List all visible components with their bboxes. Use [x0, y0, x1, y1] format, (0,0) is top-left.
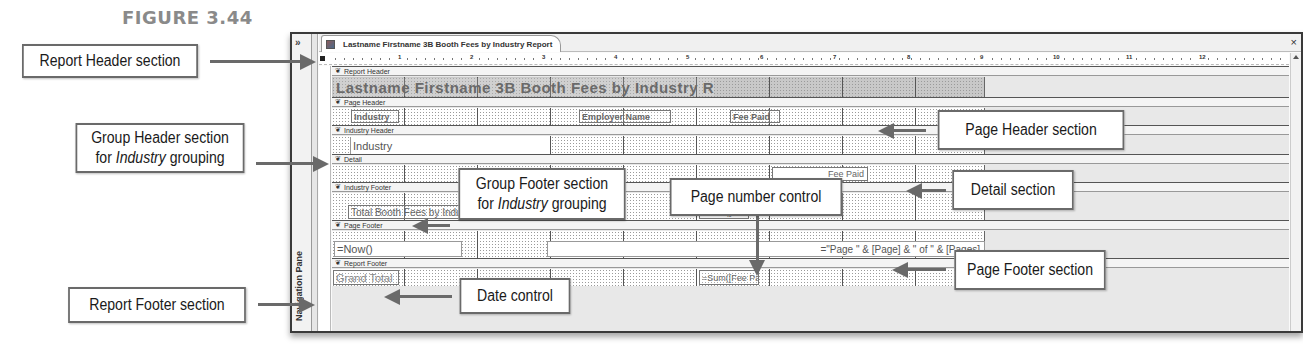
ruler-mark: 12 — [1198, 54, 1207, 60]
leader-line — [210, 60, 303, 63]
date-control[interactable]: =Now() — [334, 241, 462, 257]
navigation-pane[interactable]: » Navigation Pane — [292, 34, 312, 331]
callout-report-footer: Report Footer section — [68, 287, 246, 323]
grand-total-label[interactable]: Grand Total — [333, 270, 399, 285]
total-booth-fees-label[interactable]: Total Booth Fees by Industry — [348, 205, 463, 219]
arrow-down-icon — [749, 260, 765, 276]
callout-group-footer-line1: Group Footer section — [476, 174, 608, 194]
arrow-right-icon — [299, 297, 315, 313]
report-tab[interactable]: Lastname Firstname 3B Booth Fees by Indu… — [321, 35, 561, 52]
section-hand-icon: ❦ — [335, 67, 341, 75]
callout-page-footer: Page Footer section — [954, 250, 1105, 290]
arrow-left-icon — [384, 289, 400, 305]
section-bar-label: Industry Footer — [344, 184, 391, 191]
callout-report-header: Report Header section — [22, 44, 198, 78]
leader-line — [400, 295, 452, 298]
scroll-up-icon[interactable] — [1293, 55, 1299, 59]
ruler-mark: 10 — [1052, 54, 1061, 60]
leader-line — [428, 224, 450, 227]
section-hand-icon: ❦ — [335, 183, 341, 191]
ruler-mark: 8 — [906, 54, 911, 60]
arrow-right-icon — [300, 54, 316, 70]
section-bar-label: Report Header — [344, 68, 390, 75]
section-bar-page-footer[interactable]: ❦ Page Footer — [332, 220, 1289, 230]
callout-date: Date control — [460, 278, 571, 314]
close-icon[interactable]: × — [1291, 36, 1297, 48]
ruler-mark: 4 — [613, 54, 618, 60]
horizontal-ruler: 1 2 3 4 5 6 7 8 9 10 11 12 — [319, 53, 1289, 65]
report-footer-grid: Grand Total =Sum([Fee Paid]) — [332, 269, 985, 286]
tab-bar: Lastname Firstname 3B Booth Fees by Indu… — [319, 34, 1301, 52]
leader-line — [894, 129, 926, 132]
industry-label[interactable]: Industry — [351, 110, 399, 123]
arrow-left-icon — [412, 218, 428, 234]
ruler-mark: 1 — [397, 54, 402, 60]
leader-line — [756, 216, 759, 262]
callout-group-header: Group Header section for Industry groupi… — [76, 123, 245, 173]
page-footer-grid: =Now() ="Page " & [Page] & " of " & [Pag… — [332, 231, 985, 258]
detail-grid: Fee Paid — [332, 165, 985, 182]
report-header-grid: Lastname Firstname 3B Booth Fees by Indu… — [332, 77, 985, 97]
callout-group-header-line1: Group Header section — [91, 128, 229, 148]
callout-page-header: Page Header section — [938, 110, 1125, 150]
arrow-left-icon — [878, 123, 894, 139]
leader-line — [258, 303, 302, 306]
callout-group-footer: Group Footer section for Industry groupi… — [458, 168, 625, 220]
callout-group-footer-line2: for Industry grouping — [477, 194, 606, 214]
arrow-left-icon — [892, 262, 908, 278]
ruler-mark: 11 — [1125, 54, 1133, 60]
section-hand-icon: ❦ — [335, 259, 341, 267]
ruler-mark: 7 — [832, 54, 837, 60]
section-bar-label: Industry Header — [344, 127, 394, 134]
employer-name-label[interactable]: Employer Name — [579, 110, 671, 123]
industry-field[interactable]: Industry — [350, 137, 550, 154]
leader-line — [256, 162, 316, 165]
ruler-mark: 2 — [469, 54, 474, 60]
report-tab-title: Lastname Firstname 3B Booth Fees by Indu… — [343, 40, 552, 49]
section-bar-page-header[interactable]: ❦ Page Header — [332, 97, 1289, 107]
section-hand-icon: ❦ — [335, 221, 341, 229]
callout-page-number: Page number control — [670, 178, 842, 216]
ruler-mark: 3 — [541, 54, 546, 60]
vertical-ruler — [319, 66, 331, 331]
vertical-scrollbar[interactable] — [1290, 53, 1301, 331]
section-bar-label: Report Footer — [344, 260, 387, 267]
industry-footer-grid: Total Booth Fees by Industry =Sum([Fee P… — [332, 193, 985, 220]
figure-label: FIGURE 3.44 — [122, 7, 253, 28]
leader-line — [908, 268, 946, 271]
section-bar-report-header[interactable]: ❦ Report Header — [332, 66, 1289, 76]
section-hand-icon: ❦ — [335, 126, 341, 134]
nav-pane-border — [312, 34, 318, 331]
section-bar-report-footer[interactable]: ❦ Report Footer — [332, 258, 1289, 268]
report-title-control[interactable]: Lastname Firstname 3B Booth Fees by Indu… — [334, 78, 714, 96]
section-hand-icon: ❦ — [335, 155, 341, 163]
section-bar-industry-header[interactable]: ❦ Industry Header — [332, 125, 1289, 135]
section-bar-label: Page Header — [344, 99, 385, 106]
arrow-right-icon — [313, 156, 329, 172]
section-bar-label: Detail — [344, 156, 362, 163]
section-bar-detail[interactable]: ❦ Detail — [332, 154, 1289, 164]
section-bar-label: Page Footer — [344, 222, 383, 229]
callout-detail: Detail section — [952, 170, 1073, 210]
report-icon — [326, 40, 335, 49]
ruler-ticks — [331, 55, 1289, 63]
fee-paid-label[interactable]: Fee Paid — [730, 110, 780, 123]
report-selector[interactable] — [320, 56, 325, 61]
leader-line — [922, 189, 946, 192]
callout-group-header-line2: for Industry grouping — [95, 148, 224, 168]
section-hand-icon: ❦ — [335, 98, 341, 106]
nav-pane-expand-icon[interactable]: » — [295, 37, 301, 48]
ruler-mark: 6 — [759, 54, 764, 60]
arrow-left-icon — [906, 183, 922, 199]
ruler-mark: 5 — [685, 54, 690, 60]
ruler-mark: 9 — [979, 54, 984, 60]
page-number-control[interactable]: ="Page " & [Page] & " of " & [Pages] — [547, 241, 985, 257]
